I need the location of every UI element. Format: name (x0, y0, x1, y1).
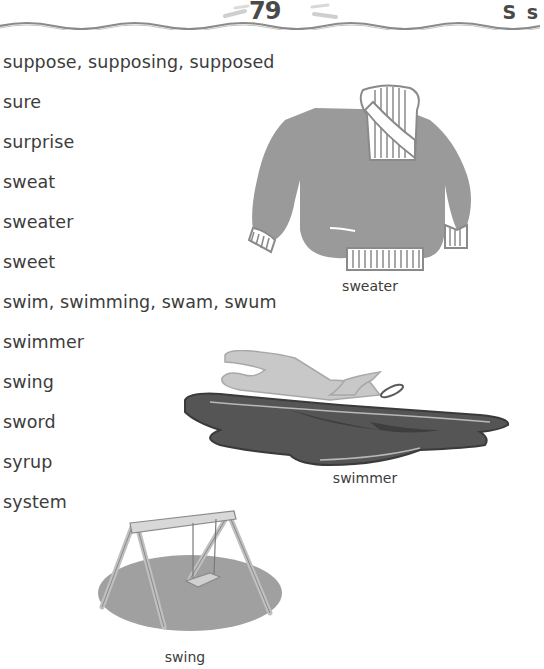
letter-tag: S s (502, 1, 540, 23)
word-item: surprise (3, 130, 277, 170)
swimmer-icon (180, 350, 520, 470)
swimmer-caption: swimmer (325, 470, 405, 486)
swing-caption: swing (155, 649, 215, 665)
word-item: sweater (3, 210, 277, 250)
sweater-caption: sweater (330, 278, 410, 294)
sweater-icon (245, 80, 475, 275)
word-item: swim, swimming, swam, swum (3, 290, 277, 330)
word-item: suppose, supposing, supposed (3, 50, 277, 90)
word-item: sweet (3, 250, 277, 290)
page-number: 79 (249, 0, 280, 25)
word-item: sure (3, 90, 277, 130)
swing-icon (90, 505, 300, 635)
page-header: 79 S s (0, 0, 544, 34)
word-item: sweat (3, 170, 277, 210)
